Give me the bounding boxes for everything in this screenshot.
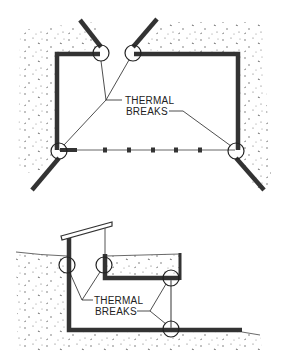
bottom-label-line2: BREAKS [95,306,137,317]
section-view: THERMAL BREAKS [16,222,262,352]
top-label-line1: THERMAL [125,95,174,106]
top-label-line2: BREAKS [126,106,168,117]
thermal-breaks-diagram: THERMAL BREAKS THERMAL BREAKS [0,0,284,364]
soil-upper [106,254,180,278]
plan-view: THERMAL BREAKS [18,19,272,190]
wall-outline [57,54,100,150]
bottom-label-line1: THERMAL [94,295,143,306]
solar-panel [61,222,112,240]
